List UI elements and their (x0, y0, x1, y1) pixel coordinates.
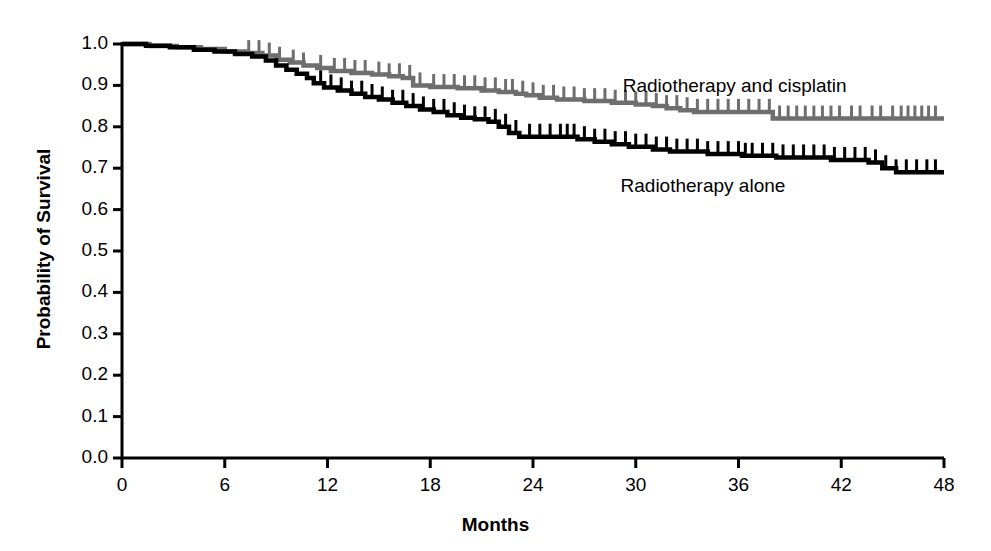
x-tick-label: 48 (914, 474, 974, 496)
x-tick-label: 42 (811, 474, 871, 496)
y-tick-label: 1.0 (50, 32, 108, 54)
x-tick-label: 12 (298, 474, 358, 496)
y-tick-label: 0.7 (50, 156, 108, 178)
y-tick-label: 0.0 (50, 446, 108, 468)
x-tick-label: 36 (709, 474, 769, 496)
x-tick-label: 0 (92, 474, 152, 496)
axis-lines (122, 42, 944, 458)
x-tick-label: 18 (400, 474, 460, 496)
x-tick-label: 24 (503, 474, 563, 496)
y-tick-label: 0.8 (50, 115, 108, 137)
survival-curve-1 (122, 44, 944, 172)
y-tick-label: 0.3 (50, 322, 108, 344)
y-tick-label: 0.9 (50, 73, 108, 95)
series-label-1: Radiotherapy alone (621, 175, 786, 197)
x-tick-label: 30 (606, 474, 666, 496)
survival-curves (122, 40, 944, 172)
series-label-0: Radiotherapy and cisplatin (623, 75, 847, 97)
y-tick-label: 0.4 (50, 280, 108, 302)
x-axis-title: Months (0, 514, 991, 536)
y-tick-label: 0.2 (50, 363, 108, 385)
y-tick-label: 0.1 (50, 405, 108, 427)
survival-chart-figure: Probability of Survival Months 0.00.10.2… (0, 0, 991, 551)
y-tick-label: 0.6 (50, 198, 108, 220)
y-tick-label: 0.5 (50, 239, 108, 261)
axis-tick-marks (113, 44, 944, 468)
x-tick-label: 6 (195, 474, 255, 496)
